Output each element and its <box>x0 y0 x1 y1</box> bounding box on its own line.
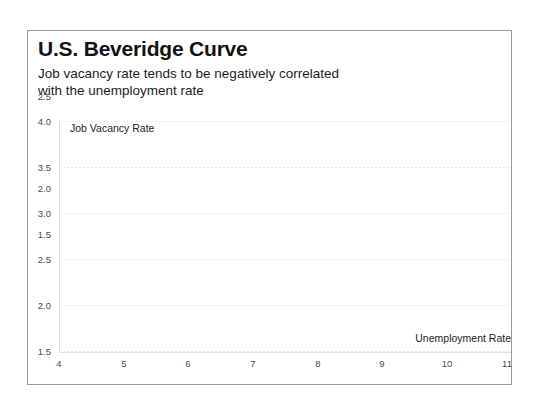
plot-area <box>59 121 511 352</box>
y-axis-tick-20: 2.0 <box>27 301 51 311</box>
x-axis-line <box>59 352 511 353</box>
chart-subtitle: Job vacancy rate tends to be negatively … <box>38 65 503 99</box>
y-axis-tick-label-1: 1.5 <box>27 230 51 240</box>
chart-title: U.S. Beveridge Curve <box>38 36 503 62</box>
x-axis-tick-8: 8 <box>303 358 333 369</box>
x-axis-tick-7: 7 <box>238 358 268 369</box>
y-axis-tick-35: 3.5 <box>27 163 51 173</box>
y-axis-tick-25: 2.5 <box>27 255 51 265</box>
x-axis-tick-10: 10 <box>432 358 462 369</box>
y-axis-tick-40: 4.0 <box>27 117 51 127</box>
y-axis-tick-15: 1.5 <box>27 347 51 357</box>
chart-slide-frame: U.S. Beveridge Curve Job vacancy rate te… <box>27 30 512 385</box>
x-axis-tick-6: 6 <box>173 358 203 369</box>
chart-plot-region: 1.5 2.0 2.5 4.0 3.5 3.0 2.5 2.0 1.5 Job … <box>28 118 512 385</box>
x-axis-tick-5: 5 <box>109 358 139 369</box>
chart-subtitle-line-2: with the unemployment rate <box>38 82 503 99</box>
x-axis-tick-4: 4 <box>44 358 74 369</box>
x-axis-tick-9: 9 <box>367 358 397 369</box>
x-axis-tick-11: 11 <box>492 358 512 369</box>
chart-subtitle-line-1: Job vacancy rate tends to be negatively … <box>38 65 503 82</box>
y-axis-tick-label-3: 2.5 <box>27 92 51 102</box>
data-series-layer <box>59 121 511 352</box>
chart-heading: U.S. Beveridge Curve Job vacancy rate te… <box>38 36 503 99</box>
y-axis-title: Job Vacancy Rate <box>70 122 154 134</box>
y-axis-tick-label-2: 2.0 <box>27 184 51 194</box>
x-axis-title: Unemployment Rate <box>415 332 511 344</box>
y-axis-tick-30: 3.0 <box>27 209 51 219</box>
